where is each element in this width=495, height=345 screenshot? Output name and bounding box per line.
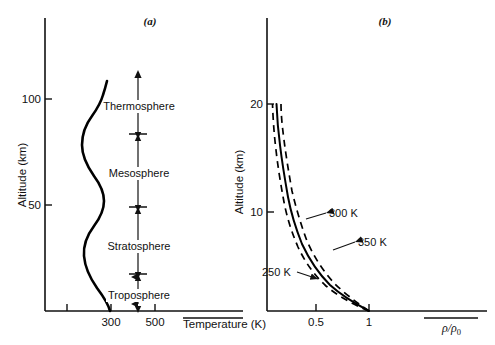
panel-a-x-axis-label: Temperature (K) bbox=[183, 318, 266, 330]
curve-label-300k: 300 K bbox=[329, 207, 358, 219]
panel-b-ytick-label-20: 20 bbox=[250, 98, 263, 110]
rho-ratio-text: ρ/ρ bbox=[441, 321, 457, 335]
layer-label-mesosphere: Mesosphere bbox=[109, 167, 170, 179]
panel-b-title: (b) bbox=[379, 15, 392, 28]
figure-container: (a) (b) Altitude (km) Temperature (K) 10… bbox=[0, 0, 495, 345]
layer-label-stratosphere: Stratosphere bbox=[108, 240, 171, 252]
panel-b-x-axis-label: ρ/ρ0 bbox=[441, 321, 461, 337]
panel-a-ytick-label-50: 50 bbox=[28, 199, 41, 211]
panel-a-y-axis-label: Altitude (km) bbox=[16, 143, 28, 208]
curve-label-250k: 250 K bbox=[262, 266, 291, 278]
panel-b-xtick-label-05: 0.5 bbox=[308, 316, 324, 328]
layer-label-troposphere: Troposphere bbox=[108, 289, 170, 301]
rho-subscript-zero: 0 bbox=[457, 327, 461, 337]
curve-label-350k: 350 K bbox=[358, 236, 387, 248]
panel-b-ytick-label-10: 10 bbox=[250, 206, 263, 218]
panel-a-ytick-label-100: 100 bbox=[22, 93, 41, 105]
figure-text-layer: (a) (b) Altitude (km) Temperature (K) 10… bbox=[0, 0, 495, 345]
panel-b-xtick-label-1: 1 bbox=[366, 316, 372, 328]
panel-a-title: (a) bbox=[144, 15, 157, 28]
panel-a-xtick-label-500: 500 bbox=[145, 316, 164, 328]
layer-label-thermosphere: Thermosphere bbox=[103, 100, 175, 112]
panel-a-xtick-label-300: 300 bbox=[101, 316, 120, 328]
panel-b-y-axis-label: Altitude (km) bbox=[233, 150, 245, 215]
